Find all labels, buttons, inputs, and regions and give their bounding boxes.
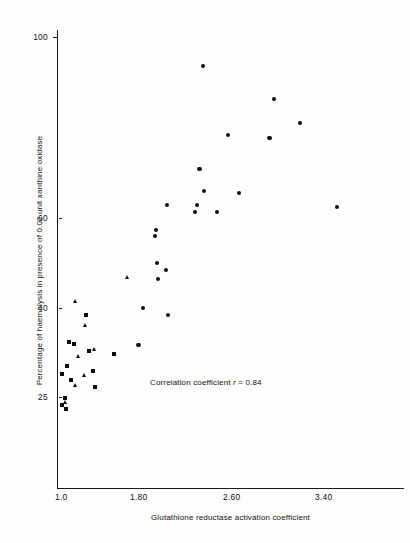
- data-point-square: [65, 364, 69, 368]
- scan-speck: [386, 46, 387, 47]
- data-point-square: [84, 313, 88, 317]
- data-point-square: [112, 352, 116, 356]
- data-point-circle: [335, 205, 339, 209]
- data-point-square: [60, 372, 64, 376]
- scan-speck: [95, 452, 96, 453]
- annotation-prefix: Correlation coefficient: [150, 378, 233, 387]
- x-tick-label-1-80: 1.80: [130, 492, 148, 502]
- x-tick-label-3-40: 3.40: [315, 492, 333, 502]
- correlation-annotation: Correlation coefficient r = 0.84: [150, 378, 262, 387]
- scatter-plot-figure: 100 60 40 25 1.0 1.80 2.60 3.40 Percenta…: [0, 0, 410, 543]
- data-point-circle: [201, 64, 205, 68]
- data-point-circle: [136, 343, 140, 347]
- data-point-circle: [267, 136, 271, 140]
- data-point-circle: [141, 306, 145, 310]
- data-point-circle: [202, 189, 206, 193]
- data-point-triangle: [83, 323, 87, 327]
- scan-speck: [357, 9, 358, 10]
- data-point-circle: [166, 313, 170, 317]
- data-point-square: [72, 342, 76, 346]
- data-point-triangle: [63, 400, 67, 404]
- scan-speck: [330, 300, 331, 301]
- data-point-square: [91, 369, 95, 373]
- x-axis-title: Glutathione reductase activation coeffic…: [57, 513, 404, 522]
- data-point-square: [67, 340, 71, 344]
- scan-speck: [20, 520, 21, 521]
- data-point-circle: [193, 210, 197, 214]
- data-point-square: [64, 407, 68, 411]
- data-point-circle: [272, 97, 276, 101]
- scan-speck: [268, 123, 269, 124]
- data-point-circle: [197, 167, 201, 171]
- data-point-triangle: [82, 373, 86, 377]
- data-point-circle: [154, 228, 158, 232]
- scan-speck: [399, 528, 400, 529]
- x-tick-label-2-60: 2.60: [223, 492, 241, 502]
- y-axis-line: [57, 30, 58, 489]
- data-point-circle: [165, 203, 169, 207]
- data-point-circle: [156, 277, 160, 281]
- data-point-circle: [195, 203, 199, 207]
- data-point-circle: [155, 261, 159, 265]
- annotation-suffix: = 0.84: [236, 378, 262, 387]
- data-point-circle: [237, 191, 241, 195]
- x-tick-label-1-0: 1.0: [55, 492, 68, 502]
- y-axis-title: Percentage of haemolysis in presence of …: [35, 123, 44, 399]
- data-point-circle: [153, 234, 157, 238]
- x-axis-line: [57, 488, 404, 489]
- y-tick-label-100: 100: [14, 32, 48, 42]
- data-point-square: [87, 349, 91, 353]
- y-tick-60: [59, 218, 62, 219]
- data-point-square: [93, 385, 97, 389]
- data-point-triangle: [73, 383, 77, 387]
- data-point-circle: [298, 121, 302, 125]
- scan-speck: [44, 463, 45, 464]
- data-point-triangle: [92, 347, 96, 351]
- data-point-circle: [215, 210, 219, 214]
- y-tick-100: [53, 37, 57, 38]
- y-tick-25: [59, 397, 62, 398]
- data-point-square: [69, 378, 73, 382]
- data-point-circle: [226, 133, 230, 137]
- data-point-triangle: [76, 354, 80, 358]
- y-tick-40: [59, 308, 62, 309]
- data-point-circle: [164, 268, 168, 272]
- data-point-triangle: [125, 275, 129, 279]
- data-point-triangle: [73, 299, 77, 303]
